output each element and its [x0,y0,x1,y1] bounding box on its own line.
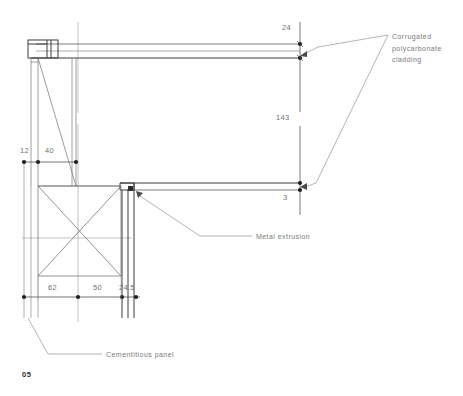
sheet-number: 05 [22,370,31,379]
leader-lines [28,35,388,354]
dimension-label-62: 62 [48,283,57,292]
dimension-label-40: 40 [45,146,54,155]
centerlines [22,22,132,322]
leader-arrowheads [136,51,307,198]
dimension-label-24-5: 24.5 [119,283,135,292]
corrugated-polycarbonate-cladding-upper [31,44,300,58]
annotation-metal-extrusion: Metal extrusion [256,231,310,243]
corrugated-polycarbonate-cladding-lower [120,183,300,190]
annotation-cementitious-panel: Cementitious panel [106,349,174,361]
dimension-label-24: 24 [282,23,291,32]
dimension-label-12: 12 [20,146,29,155]
dimension-label-50: 50 [93,283,102,292]
cementitious-panel-section [38,186,121,276]
drawing-sheet: 24 143 3 12 40 62 50 24.5 Corrugated pol… [0,0,463,396]
top-left-extrusion-head [28,40,58,58]
diagonal-profile-line [38,58,76,186]
dimension-label-143: 143 [276,113,289,122]
vertical-cladding-leaf [31,58,76,186]
annotation-corrugated-polycarbonate-cladding: Corrugated polycarbonate cladding [392,31,442,66]
dimension-label-3: 3 [283,193,287,202]
